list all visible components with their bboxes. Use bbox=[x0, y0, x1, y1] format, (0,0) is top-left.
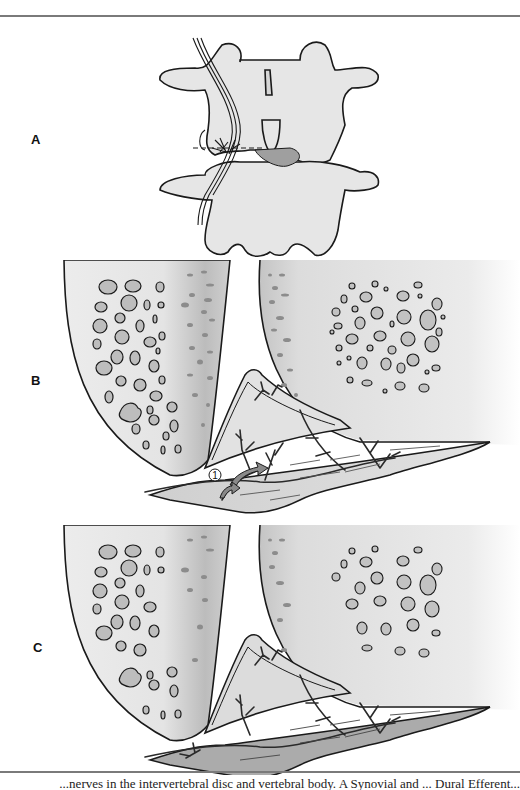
panel-b-disc-illustration: 1 bbox=[0, 260, 520, 520]
vertebra-lower bbox=[160, 162, 378, 257]
bottom-rule bbox=[0, 771, 520, 773]
panel-c-disc-illustration bbox=[0, 525, 520, 775]
marker-1-label: 1 bbox=[212, 470, 218, 481]
panel-a-vertebrae-illustration bbox=[0, 15, 520, 265]
figure-caption: ...nerves in the intervertebral disc and… bbox=[0, 776, 520, 790]
vertebra-upper bbox=[160, 42, 378, 163]
